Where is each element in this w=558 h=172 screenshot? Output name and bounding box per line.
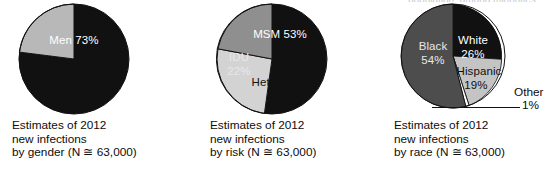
pie-risk-svg: MSM 53% IDU 22% Heterosexual 25% <box>216 3 328 115</box>
caption-race-line-2: new infections <box>394 133 505 147</box>
caption-risk: Estimates of 2012 new infections by risk… <box>210 119 316 160</box>
label-white-pct: 26% <box>461 48 484 60</box>
other-leader-line <box>432 107 520 108</box>
label-men: Men 73% <box>49 34 98 46</box>
label-idu-pct: 22% <box>227 65 250 77</box>
label-black-pct: 54% <box>421 54 444 66</box>
label-hispanic-pct: 19% <box>464 79 487 91</box>
label-other-pct: 1% <box>522 99 539 112</box>
pie-race: White 26% Black 54% Hispanic 19% <box>400 3 506 109</box>
pie-risk: MSM 53% IDU 22% Heterosexual 25% <box>216 3 328 115</box>
caption-risk-line-3: by risk (N ≅ 63,000) <box>210 146 316 160</box>
caption-gender-line-3: by gender (N ≅ 63,000) <box>12 146 137 160</box>
caption-gender: Estimates of 2012 new infections by gend… <box>12 119 137 160</box>
label-women: Women 27% <box>43 91 110 103</box>
pie-gender-svg: Men 73% Women 27% <box>18 3 130 115</box>
label-msm: MSM 53% <box>253 28 307 40</box>
chart-panel-gender: Men 73% Women 27% Estimates of 2012 new … <box>0 0 190 172</box>
chart-panel-risk: MSM 53% IDU 22% Heterosexual 25% Estimat… <box>186 0 376 172</box>
caption-risk-line-1: Estimates of 2012 <box>210 119 316 133</box>
pie-chart-figure: population; among minorities Men 73% Wom… <box>0 0 558 172</box>
label-idu-name: IDU <box>229 51 249 63</box>
label-white-name: White <box>458 34 488 46</box>
caption-gender-line-2: new infections <box>12 133 137 147</box>
label-heterosexual-name: Heterosexual <box>252 76 321 88</box>
caption-risk-line-2: new infections <box>210 133 316 147</box>
caption-race: Estimates of 2012 new infections by race… <box>394 119 505 160</box>
slice-women[interactable] <box>19 4 74 59</box>
caption-gender-line-1: Estimates of 2012 <box>12 119 137 133</box>
caption-race-line-1: Estimates of 2012 <box>394 119 505 133</box>
chart-panel-race: White 26% Black 54% Hispanic 19% Other 1… <box>372 0 558 172</box>
label-hispanic-name: Hispanic <box>457 65 502 77</box>
label-black-name: Black <box>419 40 448 52</box>
pie-race-svg: White 26% Black 54% Hispanic 19% <box>400 3 506 109</box>
label-heterosexual-pct: 25% <box>268 90 291 102</box>
pie-gender: Men 73% Women 27% <box>18 3 130 115</box>
caption-race-line-3: by race (N ≅ 63,000) <box>394 146 505 160</box>
